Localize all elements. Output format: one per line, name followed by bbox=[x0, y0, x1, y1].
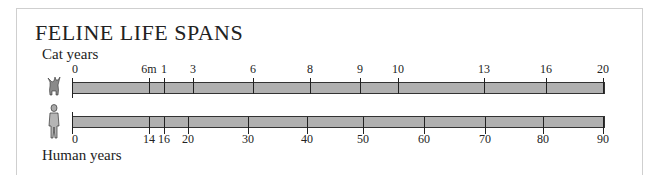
human-tick-label: 16 bbox=[158, 132, 170, 147]
figure-title: FELINE LIFE SPANS bbox=[35, 20, 243, 46]
human-tick-label: 80 bbox=[537, 132, 549, 147]
cat-icon bbox=[46, 76, 62, 96]
cat-tick-label: 3 bbox=[190, 62, 196, 77]
cat-tick bbox=[149, 78, 150, 94]
human-years-bar bbox=[72, 116, 605, 128]
human-tick-label: 30 bbox=[242, 132, 254, 147]
human-tick-label: 60 bbox=[418, 132, 430, 147]
cat-tick-label: 6 bbox=[250, 62, 256, 77]
human-tick-label: 40 bbox=[301, 132, 313, 147]
human-years-label: Human years bbox=[42, 147, 122, 164]
cat-tick bbox=[603, 78, 604, 94]
human-figure-icon bbox=[47, 104, 61, 140]
human-tick-label: 90 bbox=[597, 132, 609, 147]
human-tick-label: 70 bbox=[479, 132, 491, 147]
cat-tick-label: 16 bbox=[540, 62, 552, 77]
cat-tick bbox=[193, 78, 194, 94]
cat-years-bar bbox=[72, 82, 605, 94]
cat-tick bbox=[360, 78, 361, 94]
cat-tick bbox=[310, 78, 311, 94]
cat-tick bbox=[72, 78, 73, 98]
cat-years-label: Cat years bbox=[42, 46, 98, 63]
cat-tick-label: 1 bbox=[161, 62, 167, 77]
cat-tick bbox=[546, 78, 547, 94]
cat-tick-label: 6m bbox=[141, 62, 156, 77]
cat-tick-label: 13 bbox=[478, 62, 490, 77]
cat-tick-label: 10 bbox=[392, 62, 404, 77]
cat-tick bbox=[253, 78, 254, 94]
human-tick-label: 0 bbox=[72, 132, 78, 147]
cat-tick bbox=[164, 78, 165, 94]
cat-tick-label: 20 bbox=[597, 62, 609, 77]
human-tick bbox=[72, 112, 73, 134]
cat-tick-label: 9 bbox=[357, 62, 363, 77]
human-tick-label: 50 bbox=[357, 132, 369, 147]
cat-tick bbox=[484, 78, 485, 94]
cat-tick bbox=[398, 78, 399, 94]
human-tick-label: 20 bbox=[182, 132, 194, 147]
cat-tick-label: 0 bbox=[72, 62, 78, 77]
cat-tick-label: 8 bbox=[307, 62, 313, 77]
human-tick-label: 14 bbox=[143, 132, 155, 147]
